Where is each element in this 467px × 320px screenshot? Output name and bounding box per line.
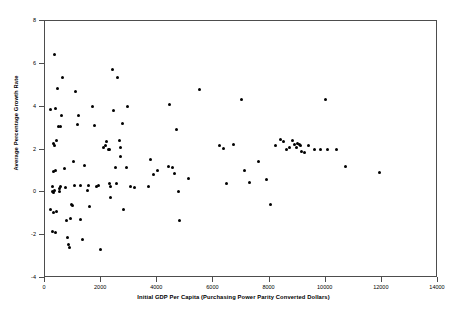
x-axis-tick-label: 14000 [417,284,457,291]
data-point [285,148,288,151]
data-point [56,87,59,90]
data-point [64,186,67,189]
y-axis-tick [39,234,44,235]
data-point [274,144,277,147]
x-axis-tick-label: 8000 [249,284,289,291]
data-point [115,182,118,185]
data-point [313,148,316,151]
x-axis-tick [212,277,213,282]
x-axis-tick [100,277,101,282]
data-point [168,103,171,106]
x-axis-tick [437,277,438,282]
data-point [156,169,159,172]
data-point [104,144,107,147]
data-point [86,189,89,192]
data-point [87,184,90,187]
data-point [54,107,57,110]
data-point [295,146,298,149]
y-axis-tick [39,191,44,192]
y-axis-tick-label: 2 [6,146,36,152]
data-point [83,164,86,167]
data-point [91,105,94,108]
data-point [335,148,338,151]
data-point [88,205,91,208]
x-axis-tick [44,277,45,282]
x-axis-tick [156,277,157,282]
data-point [129,185,132,188]
data-point [303,151,306,154]
data-point [109,185,112,188]
data-point [177,190,180,193]
y-axis-tick-label: 4 [6,103,36,109]
data-point [198,88,201,91]
x-axis-tick-label: 10000 [305,284,345,291]
data-point [152,173,155,176]
data-point [77,114,80,117]
data-point [178,219,181,222]
data-point [52,170,55,173]
y-axis-tick-label: 0 [6,188,36,194]
data-point [53,144,56,147]
data-point [288,146,291,149]
data-point [257,160,260,163]
data-point [248,181,251,184]
data-point [324,98,327,101]
data-point [74,90,77,93]
data-point [76,123,79,126]
data-point [291,139,294,142]
y-axis-tick-label: 6 [6,60,36,66]
data-point [225,182,228,185]
data-point [126,105,129,108]
data-point [59,185,62,188]
data-point [109,196,112,199]
data-point [243,169,246,172]
data-point [121,122,124,125]
data-point [61,76,64,79]
x-axis-tick-label: 2000 [80,284,120,291]
data-point [240,98,243,101]
x-axis-tick-label: 4000 [136,284,176,291]
data-point [307,144,310,147]
data-point [171,166,174,169]
y-axis-title: Average Percentage Growth Rate [13,48,19,198]
scatter-plot-figure: -4-202468 020004000600080001000012000140… [0,0,467,320]
data-point [55,139,58,142]
data-point [319,148,322,151]
data-point [173,172,176,175]
x-axis-tick-label: 0 [24,284,64,291]
data-point [79,184,82,187]
data-point [118,139,121,142]
data-point [344,165,347,168]
data-point [378,171,381,174]
data-point [66,236,69,239]
x-axis-tick [381,277,382,282]
data-point [49,108,52,111]
data-point [59,125,62,128]
x-axis-tick-label: 6000 [192,284,232,291]
data-point [97,184,100,187]
data-point [51,185,54,188]
data-point [167,165,170,168]
y-axis-tick [39,106,44,107]
x-axis-tick [325,277,326,282]
data-point [54,231,57,234]
plot-area-frame [44,20,437,277]
data-point [114,166,117,169]
data-point [58,190,61,193]
data-points-layer [45,21,436,276]
data-point [112,109,115,112]
data-point [93,124,96,127]
data-point [122,208,125,211]
data-point [72,160,75,163]
x-axis-tick [269,277,270,282]
x-axis-tick-label: 12000 [361,284,401,291]
data-point [116,76,119,79]
y-axis-tick [39,20,44,21]
data-point [79,218,82,221]
data-point [69,217,72,220]
data-point [147,185,150,188]
data-point [53,53,56,56]
data-point [63,167,66,170]
data-point [65,219,68,222]
data-point [60,114,63,117]
